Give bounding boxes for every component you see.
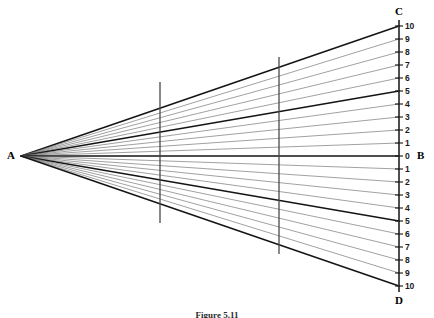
apex-label-a: A bbox=[7, 150, 15, 161]
ray-line--6 bbox=[21, 156, 399, 234]
tick-label-7: 7 bbox=[405, 61, 410, 70]
ray-line--7 bbox=[21, 156, 399, 247]
tick-marks-group bbox=[395, 26, 403, 286]
tick-label--9: 9 bbox=[405, 269, 410, 278]
figure-caption: Figure 5.11 bbox=[0, 311, 434, 318]
tick-label--4: 4 bbox=[405, 204, 410, 213]
tick-label-2: 2 bbox=[405, 126, 410, 135]
axis-label-b: B bbox=[417, 150, 424, 161]
ray-line--1 bbox=[21, 156, 399, 169]
tick-label--6: 6 bbox=[405, 230, 410, 239]
tick-label--3: 3 bbox=[405, 191, 410, 200]
ray-line-7 bbox=[21, 65, 399, 156]
tick-label-6: 6 bbox=[405, 74, 410, 83]
ray-line--9 bbox=[21, 156, 399, 273]
scale-bottom-label-d: D bbox=[395, 295, 403, 306]
tick-label-5: 5 bbox=[405, 87, 410, 96]
scale-top-label-c: C bbox=[395, 6, 403, 17]
tick-label-9: 9 bbox=[405, 35, 410, 44]
ray-line-5 bbox=[21, 91, 399, 156]
tick-label--10: 10 bbox=[405, 282, 414, 291]
ray-line-1 bbox=[21, 143, 399, 156]
ray-line--2 bbox=[21, 156, 399, 182]
ray-line--8 bbox=[21, 156, 399, 260]
tick-label-8: 8 bbox=[405, 48, 410, 57]
ray-line-8 bbox=[21, 52, 399, 156]
ray-line--5 bbox=[21, 156, 399, 221]
ray-lines-group bbox=[21, 26, 399, 286]
tick-label-10: 10 bbox=[405, 22, 414, 31]
tick-label--2: 2 bbox=[405, 178, 410, 187]
tick-label-1: 1 bbox=[405, 139, 410, 148]
ray-line-2 bbox=[21, 130, 399, 156]
ray-line-4 bbox=[21, 104, 399, 156]
tick-label--1: 1 bbox=[405, 165, 410, 174]
ray-line--4 bbox=[21, 156, 399, 208]
tick-label--5: 5 bbox=[405, 217, 410, 226]
tick-label--7: 7 bbox=[405, 243, 410, 252]
tick-label--8: 8 bbox=[405, 256, 410, 265]
tick-label-3: 3 bbox=[405, 113, 410, 122]
ray-line-6 bbox=[21, 78, 399, 156]
tick-label-0: 0 bbox=[405, 152, 410, 161]
ray-line-9 bbox=[21, 39, 399, 156]
tick-label-4: 4 bbox=[405, 100, 410, 109]
